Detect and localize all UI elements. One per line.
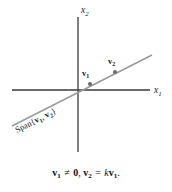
v2-label-subscript: 2 [112, 61, 115, 67]
x2-axis-label-subscript: 2 [85, 10, 89, 17]
figure-container: x2 x1 v1 v2 Span{v1, v2} v1 ≠ 0, v2 = kv… [0, 0, 172, 192]
caption-v1-again-subscript: 1 [114, 172, 118, 180]
v2-point-dot [113, 70, 117, 74]
v2-label: v2 [108, 56, 115, 67]
x1-axis-label-subscript: 1 [158, 90, 161, 97]
caption-not-equal-symbol: ≠ [61, 167, 74, 178]
caption-v2-subscript: 2 [88, 172, 92, 180]
x1-axis-label: x1 [153, 85, 162, 97]
v1-label-subscript: 1 [86, 73, 89, 79]
x2-axis-label: x2 [80, 5, 89, 17]
v1-label: v1 [82, 68, 89, 79]
span-label: Span{v1, v2} [13, 106, 58, 136]
v1-point-dot [88, 82, 92, 86]
caption-v1-subscript: 1 [57, 172, 61, 180]
caption-period: . [117, 167, 120, 178]
caption-equals-symbol: = [92, 167, 105, 178]
span-diagram: x2 x1 v1 v2 Span{v1, v2} [0, 0, 172, 192]
figure-caption: v1 ≠ 0, v2 = kv1. [0, 166, 172, 181]
